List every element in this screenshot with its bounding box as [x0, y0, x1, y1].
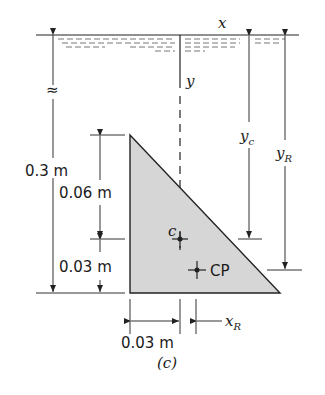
x-axis-label: x	[218, 14, 227, 32]
dimension-width-label: 0.03 m	[121, 334, 174, 352]
water-surface	[36, 35, 299, 51]
dimension-depth-label: 0.3 m	[25, 162, 68, 180]
yc-label: yc	[239, 127, 254, 147]
dimension-lower-label: 0.03 m	[59, 258, 112, 276]
break-symbol: ≈	[46, 81, 59, 99]
xr-label: xR	[225, 312, 241, 332]
centroid-label: c	[168, 222, 177, 240]
hydrostatic-force-diagram: x y ≈ 0.3 m 0.06 m 0.03 m c CP	[0, 0, 325, 395]
triangular-plate	[130, 135, 280, 293]
yr-label: yR	[275, 144, 292, 164]
bottom-dimensions	[130, 299, 222, 334]
dimension-upper-label: 0.06 m	[59, 184, 112, 202]
center-of-pressure-label: CP	[210, 262, 230, 280]
y-axis-label: y	[185, 72, 195, 90]
figure-caption: (c)	[157, 354, 177, 372]
